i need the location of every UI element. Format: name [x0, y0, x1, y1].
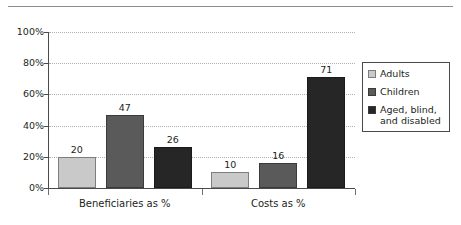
- legend-swatch-icon-aged-blind-disabled: [368, 106, 376, 114]
- bar: [106, 115, 144, 188]
- legend-label-aged-blind-disabled: Aged, blind, and disabled: [380, 104, 445, 126]
- y-axis-tick-label: 80%: [4, 58, 44, 68]
- bar-value-label: 20: [58, 145, 96, 155]
- legend-item-adults[interactable]: Adults: [368, 68, 445, 79]
- bar-value-label: 47: [106, 103, 144, 113]
- bar: [307, 77, 345, 188]
- bar: [259, 163, 297, 188]
- legend-label-children: Children: [380, 86, 420, 97]
- y-axis-tick: [44, 94, 48, 95]
- category-separator-tick: [202, 189, 203, 195]
- chart-figure: 0%20%40%60%80%100% 204726101671 Benefici…: [0, 0, 461, 225]
- legend-swatch-icon-adults: [368, 70, 376, 78]
- y-axis-tick-label: 20%: [4, 152, 44, 162]
- legend-label-adults: Adults: [380, 68, 410, 79]
- bar: [211, 172, 249, 188]
- bar-value-label: 16: [259, 151, 297, 161]
- y-axis-tick: [44, 157, 48, 158]
- y-axis-tick-label: 60%: [4, 89, 44, 99]
- y-axis-tick: [44, 126, 48, 127]
- y-axis-tick-label: 40%: [4, 121, 44, 131]
- gridline: [49, 32, 355, 33]
- category-separator-tick: [355, 189, 356, 195]
- bar: [154, 147, 192, 188]
- y-axis-tick-label: 100%: [4, 27, 44, 37]
- plot-area: [48, 32, 355, 188]
- top-divider-rule: [8, 6, 453, 7]
- gridline: [49, 63, 355, 64]
- legend-item-children[interactable]: Children: [368, 86, 445, 97]
- y-axis-tick: [44, 32, 48, 33]
- y-axis-tick: [44, 63, 48, 64]
- bar-value-label: 10: [211, 160, 249, 170]
- category-separator-tick: [48, 189, 49, 195]
- legend-item-aged-blind-disabled[interactable]: Aged, blind, and disabled: [368, 104, 445, 126]
- bar-value-label: 71: [307, 65, 345, 75]
- chart-legend: Adults Children Aged, blind, and disable…: [362, 62, 450, 132]
- bar-value-label: 26: [154, 135, 192, 145]
- bar: [58, 157, 96, 188]
- x-axis-category-label: Costs as %: [202, 199, 356, 209]
- y-axis-line: [48, 32, 49, 188]
- legend-swatch-icon-children: [368, 88, 376, 96]
- x-axis-category-label: Beneficiaries as %: [48, 199, 202, 209]
- y-axis-tick-label: 0%: [4, 183, 44, 193]
